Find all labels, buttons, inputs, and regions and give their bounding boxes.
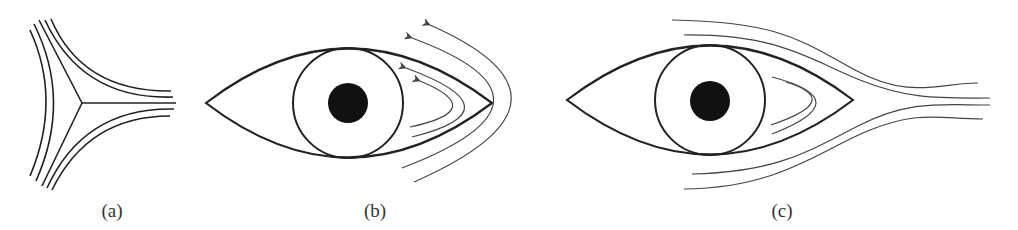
arrow-line-3 (402, 38, 494, 168)
panel-b-flow-arrows (402, 25, 511, 182)
arrow-line-4 (414, 25, 511, 182)
arrow-line-1 (410, 81, 453, 127)
figure-canvas (0, 0, 1018, 230)
panel-b-label: (b) (364, 200, 386, 222)
panel-a-label: (a) (101, 200, 122, 222)
pupil (690, 81, 730, 121)
panel-c-label: (c) (771, 200, 792, 222)
panel-c-eye (567, 45, 853, 155)
panel-b-eye (206, 48, 492, 158)
panel-a-streamlines (30, 19, 176, 190)
pupil (328, 83, 368, 123)
